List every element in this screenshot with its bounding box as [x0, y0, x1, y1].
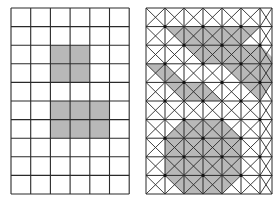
- right-diagonal-grid: [146, 8, 272, 194]
- node-dot: [258, 118, 261, 121]
- shaded-cell: [50, 45, 70, 64]
- shaded-cell: [90, 101, 110, 120]
- shaded-cell: [50, 64, 70, 83]
- node-dot: [220, 81, 223, 84]
- figure: [0, 0, 277, 201]
- shaded-cell: [70, 45, 90, 64]
- node-dot: [201, 99, 204, 102]
- node-dot: [163, 25, 166, 28]
- node-dot: [258, 81, 261, 84]
- node-dot: [163, 99, 166, 102]
- node-dot: [258, 44, 261, 47]
- shaded-cell: [50, 101, 70, 120]
- shaded-cell: [70, 120, 90, 139]
- shaded-cell: [90, 120, 110, 139]
- node-dot: [182, 44, 185, 47]
- node-dot: [163, 137, 166, 140]
- node-dot: [182, 118, 185, 121]
- node-dot: [239, 174, 242, 177]
- node-dot: [239, 62, 242, 65]
- node-dot: [258, 155, 261, 158]
- shaded-cell: [50, 120, 70, 139]
- shaded-cell: [70, 64, 90, 83]
- shaded-cell: [70, 101, 90, 120]
- node-dot: [182, 81, 185, 84]
- node-dot: [239, 137, 242, 140]
- node-dot: [182, 155, 185, 158]
- node-dot: [201, 137, 204, 140]
- node-dot: [239, 99, 242, 102]
- left-square-grid: [11, 8, 129, 194]
- node-dot: [239, 25, 242, 28]
- node-dot: [201, 62, 204, 65]
- node-dot: [201, 174, 204, 177]
- node-dot: [163, 174, 166, 177]
- node-dot: [220, 155, 223, 158]
- node-dot: [163, 62, 166, 65]
- node-dot: [220, 44, 223, 47]
- grid-diagram: [0, 0, 277, 201]
- node-dot: [201, 25, 204, 28]
- node-dot: [220, 118, 223, 121]
